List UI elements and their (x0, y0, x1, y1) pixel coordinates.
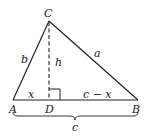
right-angle-marker (49, 89, 60, 100)
vertex-label-a: A (8, 103, 17, 116)
triangle-diagram: C A D B b a h x c − x c (0, 0, 149, 136)
vertex-label-d: D (44, 103, 54, 116)
side-label-x: x (28, 88, 35, 101)
vertex-label-c: C (44, 7, 53, 20)
side-label-b: b (21, 53, 28, 66)
vertex-label-b: B (131, 103, 140, 116)
side-label-a: a (94, 47, 101, 60)
side-label-c: c (72, 121, 78, 134)
brace-c (13, 112, 138, 120)
side-label-c-minus-x: c − x (83, 88, 112, 101)
side-label-h: h (55, 56, 62, 69)
